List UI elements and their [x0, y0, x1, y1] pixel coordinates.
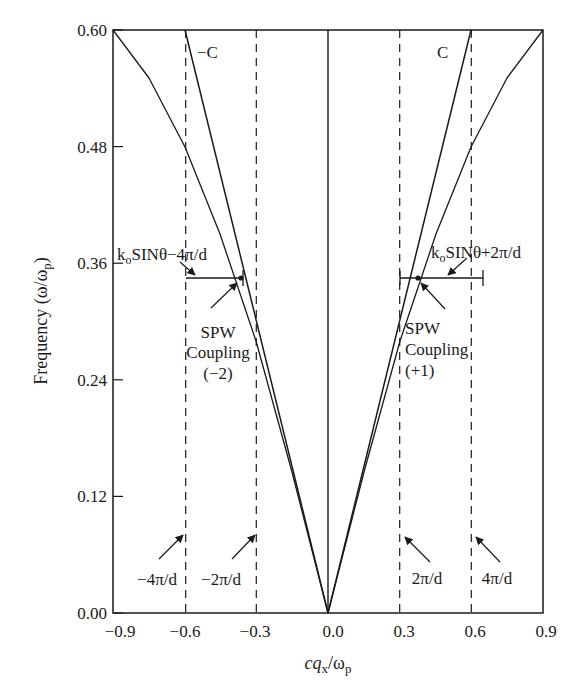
- pos2pi-arrow-icon: [405, 537, 430, 562]
- y-tick-label: 0.24: [77, 371, 107, 390]
- spw-coupling-left-label: SPW Coupling (−2): [186, 323, 250, 383]
- spp-curve-neg: [113, 30, 328, 613]
- neg4pi-label: −4π/d: [137, 570, 177, 589]
- y-tick-label: 0.00: [77, 604, 107, 623]
- spw-right-arrow-icon: [421, 283, 445, 309]
- neg2pi-label: −2π/d: [201, 570, 241, 589]
- right-kline-label: koSINθ+2π/d: [431, 243, 521, 265]
- x-tick-label: 0.3: [393, 622, 414, 641]
- x-tick-label: −0.3: [240, 622, 271, 641]
- spw-left-arrow-icon: [211, 283, 237, 308]
- y-tick-label: 0.60: [77, 21, 107, 40]
- y-tick-label: 0.36: [77, 254, 107, 273]
- coupling-point-right: [415, 275, 420, 280]
- svg-text:Coupling: Coupling: [186, 343, 250, 362]
- svg-text:Coupling: Coupling: [405, 340, 469, 359]
- x-tick-label: −0.6: [170, 622, 201, 641]
- x-axis-title: cqx/ωp: [305, 653, 352, 676]
- k-line-left: [186, 270, 243, 286]
- neg4pi-arrow-icon: [159, 535, 183, 559]
- x-tick-label: −0.9: [105, 622, 136, 641]
- x-tick-label: 0.6: [464, 622, 485, 641]
- pos-c-label: C: [437, 43, 448, 62]
- spw-coupling-right-label: SPW Coupling (+1): [405, 319, 469, 380]
- pos4pi-label: 4π/d: [482, 569, 513, 588]
- pos2pi-label: 2π/d: [412, 569, 443, 588]
- y-tick-label: 0.48: [77, 138, 107, 157]
- y-tick-labels: 0.00 0.12 0.24 0.36 0.48 0.60: [77, 21, 107, 623]
- svg-text:(−2): (−2): [203, 364, 232, 383]
- neg2pi-arrow-icon: [232, 535, 255, 559]
- neg-c-label: −C: [197, 43, 218, 62]
- y-ticks: [113, 30, 123, 613]
- svg-text:SPW: SPW: [201, 323, 237, 342]
- pos4pi-arrow-icon: [476, 537, 500, 562]
- svg-text:SPW: SPW: [405, 319, 441, 338]
- coupling-point-left: [238, 275, 243, 280]
- left-kline-label: koSINθ−4π/d: [117, 245, 207, 267]
- x-tick-labels: −0.9 −0.6 −0.3 0.0 0.3 0.6 0.9: [105, 622, 557, 641]
- x-tick-label: 0.0: [322, 622, 343, 641]
- x-tick-label: 0.9: [535, 622, 556, 641]
- y-axis-title: Frequency (ω/ωp): [31, 257, 54, 385]
- svg-text:(+1): (+1): [405, 361, 434, 380]
- k-line-right: [400, 270, 483, 286]
- dispersion-chart: 0.00 0.12 0.24 0.36 0.48 0.60 −0.9 −0.6 …: [0, 0, 578, 698]
- y-tick-label: 0.12: [77, 487, 107, 506]
